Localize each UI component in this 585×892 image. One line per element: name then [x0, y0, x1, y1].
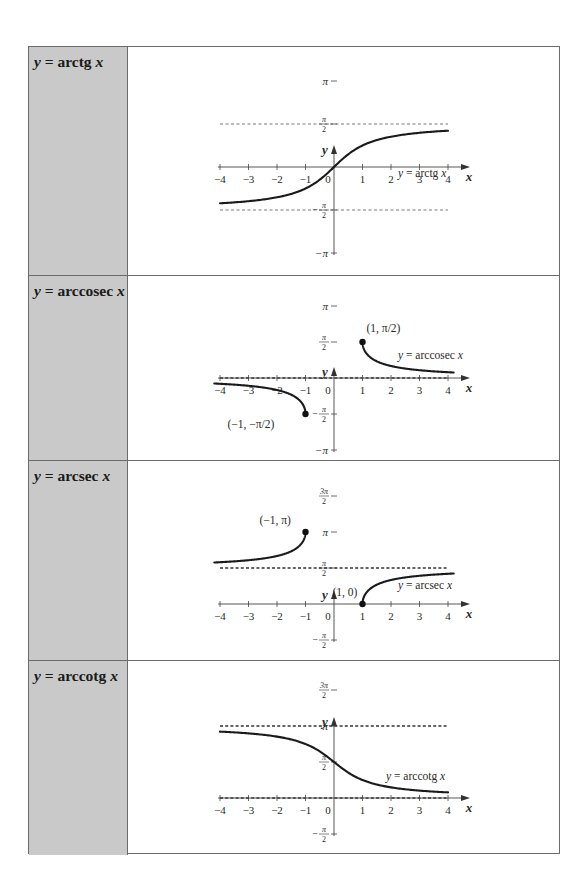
fraction-numerator: π: [322, 115, 327, 124]
endpoint-dot: [359, 601, 365, 607]
minus-sign: −: [312, 828, 319, 839]
y-axis-label: y: [320, 587, 328, 602]
y-tick-label: −π: [315, 247, 328, 259]
y-tick-label: −π: [315, 444, 328, 456]
y-axis-arrow-icon: [331, 717, 337, 726]
x-tick-label: 2: [388, 173, 394, 185]
x-tick-label: −3: [243, 804, 255, 816]
x-tick-label: 4: [445, 610, 451, 622]
fraction-denominator: 2: [322, 691, 326, 700]
minus-sign: −: [312, 408, 319, 419]
x-tick-label: −4: [214, 173, 226, 185]
chart-svg: x−4−3−2−101234yππ2−π2−πy = arctg x: [128, 47, 559, 276]
table-row-arccosec: y = arccosec x x−4−3−2−101234yππ2−π2−π(1…: [29, 276, 559, 461]
x-tick-label: −4: [214, 804, 226, 816]
function-label: y = arccosec x: [34, 282, 125, 300]
y-tick-label: 3π2: [319, 487, 329, 506]
y-tick-label: π2: [319, 333, 329, 352]
function-label: y = arctg x: [34, 53, 103, 71]
x-tick-label: −1: [300, 610, 312, 622]
table-row-arccotg: y = arccotg x x−4−3−2−101234y3π2ππ2−π2y …: [29, 661, 559, 855]
table-row-arctg: y = arctg x x−4−3−2−101234yππ2−π2−πy = a…: [29, 47, 559, 276]
x-tick-label: −2: [271, 804, 283, 816]
x-tick-label: 0: [325, 384, 331, 396]
y-tick-label: π2: [319, 115, 329, 134]
y-tick-label: π: [322, 720, 328, 732]
label-eq: = arctg: [41, 53, 92, 70]
function-curve: [214, 384, 305, 414]
x-tick-label: 2: [388, 610, 394, 622]
fraction-numerator: π: [322, 201, 327, 210]
table-row-arcsec: y = arcsec x x−4−3−2−101234y3π2ππ2−π2(−1…: [29, 461, 559, 661]
minus-sign: −: [312, 634, 319, 645]
label-y: y: [34, 282, 41, 299]
x-tick-label: −2: [271, 173, 283, 185]
y-tick-label: π: [322, 300, 328, 312]
y-tick-label: −π2: [312, 201, 329, 220]
x-tick-label: 3: [417, 384, 423, 396]
label-eq: = arcsec: [41, 467, 99, 484]
x-tick-label: 0: [325, 610, 331, 622]
fraction-denominator: 2: [322, 125, 326, 134]
fraction-denominator: 2: [322, 641, 326, 650]
label-y: y: [34, 53, 41, 70]
x-axis-label: x: [465, 800, 473, 815]
minus-sign: −: [312, 204, 319, 215]
fraction-denominator: 2: [322, 835, 326, 844]
point-label: (1, 0): [333, 586, 358, 599]
fraction-numerator: π: [322, 631, 327, 640]
fraction-numerator: 3π: [319, 681, 329, 690]
x-tick-label: 1: [360, 804, 366, 816]
inverse-trig-table: y = arctg x x−4−3−2−101234yππ2−π2−πy = a…: [28, 46, 560, 854]
curve-label: y = arccosec x: [397, 349, 464, 362]
x-axis-label: x: [465, 169, 473, 184]
fraction-denominator: 2: [322, 211, 326, 220]
label-eq: = arccosec: [41, 282, 113, 299]
fraction-denominator: 2: [322, 497, 326, 506]
x-tick-label: −4: [214, 384, 226, 396]
label-x: x: [96, 53, 104, 70]
fraction-denominator: 2: [322, 343, 326, 352]
x-tick-label: −1: [300, 173, 312, 185]
y-axis-arrow-icon: [331, 145, 337, 154]
fraction-numerator: π: [322, 333, 327, 342]
x-tick-label: 2: [388, 804, 394, 816]
function-label: y = arccotg x: [34, 667, 118, 685]
x-tick-label: −1: [300, 804, 312, 816]
function-curve: [214, 532, 305, 562]
function-label-cell: y = arccotg x: [29, 661, 128, 855]
curve-label: y = arctg x: [397, 167, 447, 180]
tick-text: π: [322, 75, 328, 87]
function-label-cell: y = arcsec x: [29, 461, 128, 660]
x-axis-label: x: [465, 380, 473, 395]
y-tick-label: 3π2: [319, 681, 329, 700]
y-axis-arrow-icon: [331, 367, 337, 376]
y-tick-label: π: [322, 526, 328, 538]
fraction-numerator: π: [322, 405, 327, 414]
x-tick-label: −4: [214, 610, 226, 622]
fraction-numerator: π: [322, 825, 327, 834]
y-tick-label: −π2: [312, 825, 329, 844]
endpoint-dot: [302, 529, 308, 535]
chart-svg: x−4−3−2−101234y3π2ππ2−π2(−1, π)(1, 0)y =…: [128, 461, 559, 661]
tick-text: π: [322, 720, 328, 732]
graph-arccotg: x−4−3−2−101234y3π2ππ2−π2y = arccotg x: [128, 661, 559, 855]
point-label: (−1, −π/2): [228, 418, 275, 431]
x-tick-label: 3: [417, 610, 423, 622]
label-x: x: [110, 667, 118, 684]
x-tick-label: 4: [445, 384, 451, 396]
x-tick-label: 1: [360, 173, 366, 185]
x-tick-label: −3: [243, 610, 255, 622]
y-axis-label: y: [320, 142, 328, 157]
label-eq: = arccotg: [41, 667, 106, 684]
x-tick-label: 0: [325, 804, 331, 816]
y-tick-label: π: [322, 75, 328, 87]
fraction-denominator: 2: [322, 763, 326, 772]
tick-text: −π: [315, 247, 328, 259]
y-tick-label: −π2: [312, 405, 329, 424]
function-label-cell: y = arctg x: [29, 47, 128, 275]
function-label: y = arcsec x: [34, 467, 110, 485]
x-tick-label: 4: [445, 804, 451, 816]
x-tick-label: 1: [360, 384, 366, 396]
point-label: (1, π/2): [367, 322, 401, 335]
